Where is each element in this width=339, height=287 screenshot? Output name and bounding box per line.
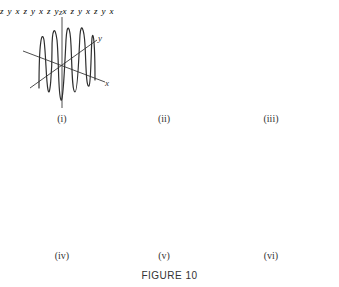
z-axis-label: z xyxy=(58,7,63,17)
panel-iii-caption: (iii) xyxy=(241,113,301,124)
figure-canvas: z y x xyxy=(0,0,339,287)
panel-iv-caption: (iv) xyxy=(32,250,92,261)
panel-vi-caption: (vi) xyxy=(241,250,301,261)
panel-i-graph: z y x xyxy=(23,7,109,108)
panel-ii-caption: (ii) xyxy=(134,113,194,124)
panel-i-caption: (i) xyxy=(32,113,92,124)
x-axis-label: x xyxy=(104,78,109,88)
panel-v-caption: (v) xyxy=(134,250,194,261)
y-axis-label: y xyxy=(97,33,102,43)
curve-i xyxy=(39,28,95,100)
figure-title: FIGURE 10 xyxy=(0,270,339,281)
